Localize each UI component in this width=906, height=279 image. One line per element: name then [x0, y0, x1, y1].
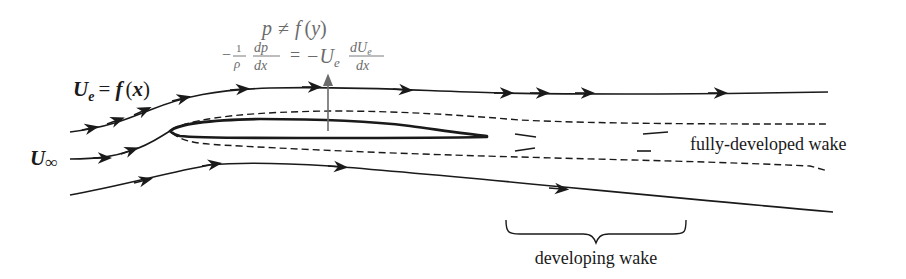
svg-text:−Ue: −Ue	[306, 45, 340, 70]
streamline-stagnation	[70, 131, 170, 159]
momentum-equation: − 1 ρ dp dx = −Ue dUe dx	[222, 40, 384, 73]
svg-text:ρ: ρ	[233, 56, 240, 71]
flow-arrow-icon	[202, 164, 215, 166]
flow-arrow-icon	[328, 166, 341, 167]
edge-velocity-label: Ue= f(x)	[73, 77, 150, 104]
flow-arrow-icon	[393, 89, 406, 90]
svg-text:dUe: dUe	[350, 40, 372, 57]
flow-arrow-icon	[549, 188, 562, 189]
svg-text:dx: dx	[356, 58, 370, 73]
svg-text:1: 1	[236, 42, 242, 54]
boundary-layer-wake-diagram: Ue= f(x) U∞ p≠f(y) − 1 ρ dp dx = −Ue dUe…	[0, 0, 906, 279]
svg-text:dx: dx	[254, 58, 268, 73]
svg-text:−: −	[222, 46, 231, 63]
developing-wake-brace	[506, 220, 686, 243]
streamline-bottom	[70, 163, 833, 212]
fully-developed-wake-label: fully-developed wake	[690, 134, 846, 154]
flow-arrow-icon	[121, 150, 132, 154]
svg-text:dp: dp	[254, 40, 268, 55]
wake-profile-marks	[515, 132, 668, 151]
svg-text:=: =	[290, 45, 300, 65]
flow-arrow-icon	[82, 128, 92, 130]
pressure-condition-label: p≠f(y)	[260, 17, 327, 40]
freestream-velocity-label: U∞	[30, 146, 57, 172]
flow-arrow-icon	[230, 89, 243, 90]
developing-wake-label: developing wake	[535, 248, 657, 268]
